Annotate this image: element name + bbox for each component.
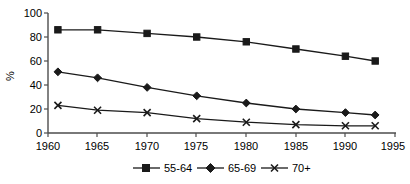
data-point-65-69-1993 [371,111,379,119]
line-chart: % 100 80 60 40 20 0 [0,0,410,184]
series-70+ [54,102,378,129]
series-line-55-64 [58,30,375,61]
x-tick-label-1970: 1970 [135,140,159,152]
data-point-65-69-1975 [193,92,201,100]
x-tick-label-1995: 1995 [381,140,405,152]
legend-marker-diamond [206,164,215,173]
legend-marker-square [143,165,150,172]
data-point-65-69-1970 [143,84,151,92]
data-point-55-64-1970 [144,30,150,36]
data-point-65-69-1980 [242,99,250,107]
legend-item-70plus: 70+ [261,162,311,174]
x-tick-label-1985: 1985 [284,140,308,152]
y-tick-label-40: 40 [30,79,42,91]
data-point-55-64-1990 [342,53,348,59]
data-point-55-64-1980 [243,39,249,45]
y-tick-label-0: 0 [36,127,42,139]
series-55-64 [55,27,379,65]
series-65-69 [54,68,379,119]
data-point-55-64-1975 [194,34,200,40]
y-tick-label-80: 80 [30,31,42,43]
x-tick-label-1980: 1980 [234,140,258,152]
data-point-55-64-1961 [55,27,61,33]
x-tick-label-1990: 1990 [333,140,357,152]
data-point-65-69-1990 [342,109,350,117]
data-point-65-69-1965 [94,74,102,82]
series-line-65-69 [58,72,375,115]
legend-item-65-69: 65-69 [197,162,256,174]
y-tick-label-100: 100 [24,7,42,19]
chart-canvas: % 100 80 60 40 20 0 [0,0,410,184]
data-point-55-64-1965 [94,27,100,33]
x-tick-label-1965: 1965 [85,140,109,152]
data-point-55-64-1985 [293,46,299,52]
x-tick-label-1975: 1975 [184,140,208,152]
data-point-65-69-1985 [292,105,300,113]
legend-label-70plus: 70+ [292,162,311,174]
legend-label-55-64: 55-64 [164,162,192,174]
y-tick-label-20: 20 [30,103,42,115]
data-point-55-64-1993 [372,58,378,64]
x-tick-label-1960: 1960 [36,140,60,152]
legend-item-55-64: 55-64 [133,162,192,174]
y-axis-title: % [4,71,16,81]
legend-label-65-69: 65-69 [228,162,256,174]
series-layer [54,27,379,130]
y-tick-label-60: 60 [30,55,42,67]
series-line-70+ [58,105,375,125]
chart-legend: 55-64 65-69 70+ [133,162,311,174]
data-point-65-69-1961 [54,68,62,76]
